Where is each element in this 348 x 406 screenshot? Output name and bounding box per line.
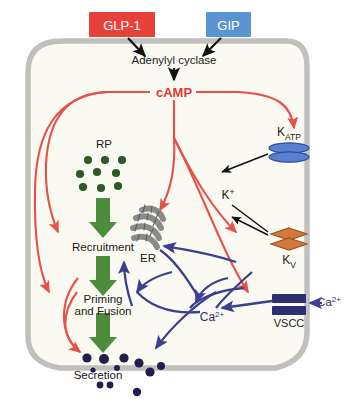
camp-label: cAMP: [156, 85, 192, 100]
er-label: ER: [140, 252, 156, 264]
vscc-label: VSCC: [274, 317, 305, 329]
reserve-pool-label: RP: [96, 138, 112, 150]
signalling-diagram-svg: GLP-1 GIP Adenylyl cyclase cAMP RP: [0, 0, 348, 406]
recruitment-label: Recruitment: [72, 241, 135, 253]
adenylyl-cyclase-label: Adenylyl cyclase: [131, 54, 216, 66]
secretion-label: Secretion: [74, 369, 123, 381]
extracellular-calcium-label: Ca2+: [317, 295, 341, 308]
priming-label-line2: and Fusion: [75, 305, 132, 317]
gip-label: GIP: [217, 18, 239, 33]
glp1-label: GLP-1: [103, 18, 141, 33]
priming-label-line1: Priming: [84, 293, 123, 305]
diagram-canvas: GLP-1 GIP Adenylyl cyclase cAMP RP: [0, 0, 348, 406]
